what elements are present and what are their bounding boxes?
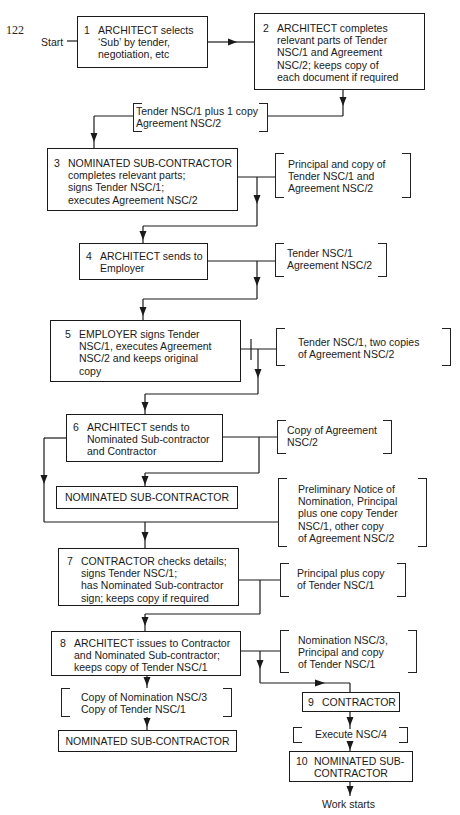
step-7-box: 7CONTRACTOR checks details; signs Tender… (58, 548, 239, 606)
document-text: plus one copy Tender (298, 507, 398, 519)
start-label: Start (41, 36, 63, 48)
bracket-left (61, 688, 70, 717)
document-bracket-f: Preliminary Notice of Nomination, Princi… (278, 478, 427, 547)
step-text: signs Tender NSC/1; (67, 567, 232, 579)
step-number: 4 (86, 250, 100, 262)
bracket-left (275, 243, 284, 277)
step-text: EMPLOYER signs Tender (79, 328, 200, 340)
step-9-box: 9CONTRACTOR (302, 692, 400, 712)
document-bracket-j: Execute NSC/4 (293, 727, 408, 743)
step-text: signs Tender NSC/1; (54, 181, 231, 193)
bracket-right (259, 103, 268, 132)
step-text: NOMINATED SUB-CONTRACTOR (68, 157, 232, 169)
document-bracket-c: Tender NSC/1 Agreement NSC/2 (275, 243, 387, 277)
document-text: Tender NSC/1 plus 1 copy (136, 105, 258, 117)
step-number: 8 (60, 637, 74, 649)
page-number: 122 (6, 23, 24, 38)
document-bracket-g: Principal plus copy of Tender NSC/1 (280, 563, 406, 597)
step-number: 3 (54, 157, 68, 169)
step-text: NSC/2; keeps copy of (263, 59, 418, 71)
step-1-box: 1ARCHITECT selects ‘Sub’ by tender, nego… (77, 16, 208, 68)
document-text: Tender NSC/1 and (288, 170, 385, 182)
step-text: ARCHITECT sends to (87, 421, 190, 433)
bracket-left (276, 328, 285, 366)
step-text: CONTRACTOR (296, 767, 406, 779)
step-text: ARCHITECT issues to Contractor (74, 637, 230, 649)
bracket-right (399, 727, 408, 743)
document-text: Copy of Tender NSC/1 (81, 703, 207, 715)
step-text: keeps copy of Tender NSC/1 (60, 661, 234, 673)
step-text: NOMINATED SUB- (314, 755, 404, 767)
recipient-nominated-subcontractor-final-box: NOMINATED SUB-CONTRACTOR (58, 730, 237, 752)
bracket-right (408, 630, 417, 673)
step-text: ‘Sub’ by tender, (84, 36, 201, 48)
document-text: of Tender NSC/1 (298, 658, 388, 670)
step-number: 2 (263, 22, 277, 34)
document-text: Tender NSC/1 (287, 247, 372, 259)
document-text: Agreement NSC/2 (287, 259, 372, 271)
step-number: 9 (308, 696, 322, 708)
recipient-nominated-subcontractor-box: NOMINATED SUB-CONTRACTOR (56, 486, 238, 509)
step-6-box: 6ARCHITECT sends to Nominated Sub-contra… (66, 414, 223, 462)
document-text: of Agreement NSC/2 (298, 532, 398, 544)
bracket-right (223, 688, 232, 717)
document-text: Copy of Nomination NSC/3 (81, 691, 207, 703)
step-text: sign; keeps copy if required (67, 592, 232, 604)
step-text: NSC/1 and Agreement (263, 46, 418, 58)
document-text: Copy of Agreement (287, 424, 377, 436)
step-text: ARCHITECT completes (277, 22, 388, 34)
document-text: NSC/1, other copy (298, 520, 398, 532)
step-8-box: 8ARCHITECT issues to Contractor and Nomi… (51, 631, 241, 676)
bracket-left (275, 153, 284, 198)
bracket-right (442, 328, 451, 366)
step-number: 10 (296, 755, 314, 767)
step-number: 5 (65, 328, 79, 340)
step-2-box: 2ARCHITECT completes relevant parts of T… (254, 13, 425, 90)
document-text: Tender NSC/1, two copies (298, 336, 419, 348)
step-number: 6 (73, 421, 87, 433)
step-text: relevant parts of Tender (263, 34, 418, 46)
step-text: NSC/1, executes Agreement (65, 340, 234, 352)
end-label: Work starts (322, 798, 375, 810)
step-4-box: 4ARCHITECT sends to Employer (79, 243, 208, 280)
document-text: of Tender NSC/1 (297, 579, 385, 591)
bracket-right (383, 420, 392, 454)
document-bracket-e: Copy of Agreement NSC/2 (277, 420, 392, 454)
step-text: executes Agreement NSC/2 (54, 194, 231, 206)
step-text: NSC/2 and keeps original (65, 352, 234, 364)
step-text: CONTRACTOR (322, 696, 396, 708)
document-text: Execute NSC/4 (315, 728, 387, 740)
step-text: each document if required (263, 71, 418, 83)
document-text: Principal and copy of (288, 158, 385, 170)
bracket-left (280, 563, 289, 597)
bracket-left (280, 630, 289, 673)
step-text: ARCHITECT sends to (100, 250, 203, 262)
step-text: has Nominated Sub-contractor (67, 579, 232, 591)
document-text: of Agreement NSC/2 (298, 348, 419, 360)
document-bracket-a: Tender NSC/1 plus 1 copy Agreement NSC/2 (133, 103, 268, 132)
document-text: Agreement NSC/2 (288, 182, 385, 194)
step-text: CONTRACTOR checks details; (81, 555, 227, 567)
document-text: Preliminary Notice of (298, 483, 398, 495)
step-10-box: 10NOMINATED SUB- CONTRACTOR (289, 751, 413, 782)
recipient-text: NOMINATED SUB-CONTRACTOR (65, 491, 229, 503)
step-text: ARCHITECT selects (98, 24, 194, 36)
bracket-right (418, 478, 427, 547)
step-3-box: 3NOMINATED SUB-CONTRACTOR completes rele… (47, 148, 238, 211)
step-text: Nominated Sub-contractor (73, 433, 216, 445)
step-number: 1 (84, 24, 98, 36)
recipient-text: NOMINATED SUB-CONTRACTOR (65, 735, 229, 747)
bracket-right (378, 243, 387, 277)
document-bracket-b: Principal and copy of Tender NSC/1 and A… (275, 153, 411, 198)
bracket-right (397, 563, 406, 597)
step-text: completes relevant parts; (54, 169, 231, 181)
step-text: negotiation, etc (84, 48, 201, 60)
document-text: Nomination NSC/3, (298, 634, 388, 646)
document-bracket-i: Copy of Nomination NSC/3 Copy of Tender … (61, 688, 232, 717)
bracket-left (293, 727, 302, 743)
document-text: NSC/2 (287, 436, 377, 448)
bracket-left (277, 420, 286, 454)
document-bracket-d: Tender NSC/1, two copies of Agreement NS… (276, 328, 451, 366)
bracket-right (402, 153, 411, 198)
step-5-box: 5EMPLOYER signs Tender NSC/1, executes A… (50, 320, 241, 382)
